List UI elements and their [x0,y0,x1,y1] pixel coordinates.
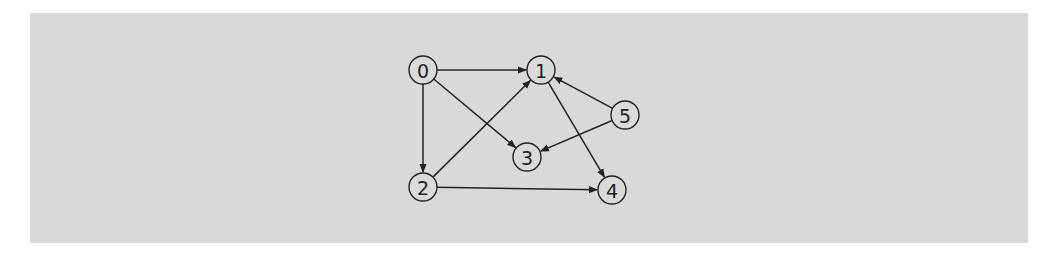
edge-0-to-3 [434,79,516,147]
nodes-group: 012345 [409,56,639,204]
node-1: 1 [527,56,555,84]
edge-line [554,77,612,108]
node-label: 3 [521,147,533,169]
edge-line [541,121,612,152]
node-3: 3 [513,143,541,171]
edge-1-to-4 [548,82,604,177]
edges-group [423,70,613,190]
node-label: 0 [417,60,429,82]
directed-graph: 012345 [0,0,1050,255]
edge-2-to-4 [437,187,597,190]
node-label: 5 [619,105,631,127]
node-label: 4 [606,180,618,202]
node-5: 5 [611,101,639,129]
node-0: 0 [409,56,437,84]
edge-line [434,79,516,147]
node-label: 1 [535,60,547,82]
node-label: 2 [417,177,429,199]
node-2: 2 [409,173,437,201]
edge-line [548,82,604,177]
edge-5-to-3 [541,121,612,152]
edge-5-to-1 [554,77,612,108]
node-4: 4 [598,176,626,204]
edge-line [437,187,597,190]
